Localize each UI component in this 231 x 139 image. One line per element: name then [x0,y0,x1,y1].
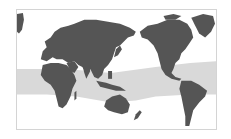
land-south-america [179,81,207,126]
map-canvas [17,10,216,129]
land-philippines [108,71,112,79]
land-greenland-left [17,13,24,34]
land-new-zealand [134,110,142,120]
land-greenland [191,14,215,38]
land-arctic-islands [164,14,182,20]
world-map [16,9,217,130]
